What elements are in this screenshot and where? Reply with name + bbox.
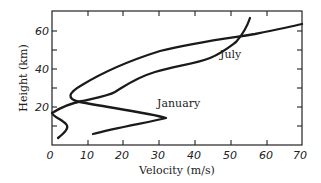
x-axis-ticks xyxy=(88,11,267,145)
x-tick-40: 40 xyxy=(187,149,201,162)
x-tick-60: 60 xyxy=(259,149,273,162)
y-axis-ticks xyxy=(52,31,302,126)
x-tick-30: 30 xyxy=(151,149,165,162)
x-axis-label: Velocity (m/s) xyxy=(138,164,215,177)
july-label: July xyxy=(219,48,242,61)
x-tick-10: 10 xyxy=(80,149,94,162)
x-tick-0: 0 xyxy=(47,149,54,162)
x-tick-70: 70 xyxy=(293,149,307,162)
y-tick-20: 20 xyxy=(35,101,49,114)
velocity-height-chart: 0 10 20 30 40 50 60 70 20 40 60 Velocity… xyxy=(0,0,321,183)
january-label: January xyxy=(156,97,201,110)
july-curve xyxy=(52,18,250,138)
x-tick-50: 50 xyxy=(223,149,237,162)
january-curve xyxy=(70,24,302,134)
y-tick-40: 40 xyxy=(35,63,49,76)
x-tick-20: 20 xyxy=(115,149,129,162)
y-tick-60: 60 xyxy=(35,25,49,38)
y-axis-label: Height (km) xyxy=(17,44,30,111)
